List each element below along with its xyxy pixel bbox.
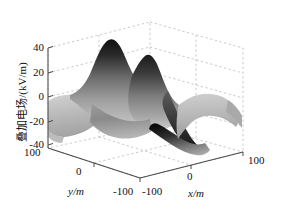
- x-tick-label-0: 0: [187, 171, 193, 182]
- surface-mesh: [48, 39, 242, 155]
- y-axis-title: y/m: [68, 186, 84, 197]
- z-axis-title: 叠加电场/(kV/m): [16, 42, 28, 162]
- y-tick-label-neg100: -100: [113, 186, 133, 197]
- y-tick-label-0: 0: [76, 166, 82, 177]
- x-tick-label-100: 100: [248, 155, 265, 166]
- z-tick: [48, 47, 53, 49]
- z-tick: [48, 72, 53, 74]
- grid-z-line: [150, 47, 243, 73]
- plot-canvas: [0, 0, 282, 212]
- z-tick: [48, 96, 53, 98]
- z-tick: [48, 144, 53, 146]
- surface-plot-figure: 40 20 0 -20 -40 叠加电场/(kV/m) 100 0 -100 y…: [0, 0, 282, 212]
- x-axis-title: x/m: [188, 188, 204, 199]
- y-tick-label-100: 100: [24, 147, 41, 158]
- x-tick-label-neg100: -100: [142, 186, 162, 197]
